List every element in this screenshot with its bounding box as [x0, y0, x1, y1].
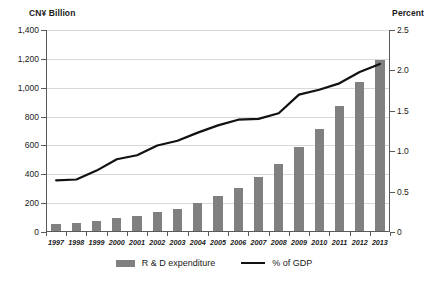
x-tick: [86, 232, 87, 236]
left-tick-label: 400: [25, 169, 39, 179]
x-tick: [309, 232, 310, 236]
x-tick-label: 2001: [129, 238, 145, 247]
right-tick: [390, 151, 395, 152]
x-tick-label: 2009: [291, 238, 307, 247]
x-tick-label: 2006: [230, 238, 246, 247]
x-tick-label: 2010: [311, 238, 327, 247]
left-tick-label: 200: [25, 198, 39, 208]
bar-swatch-icon: [116, 260, 135, 267]
x-tick: [188, 232, 189, 236]
x-tick: [248, 232, 249, 236]
x-tick: [147, 232, 148, 236]
x-tick: [167, 232, 168, 236]
right-tick-label: 1.5: [397, 106, 409, 116]
right-tick-label: 1.0: [397, 146, 409, 156]
x-tick: [127, 232, 128, 236]
left-tick-label: 800: [25, 112, 39, 122]
legend-label-expenditure: R & D expenditure: [142, 258, 216, 268]
x-tick-label: 2002: [149, 238, 165, 247]
right-tick-label: 2.0: [397, 65, 409, 75]
x-tick-label: 1999: [89, 238, 105, 247]
plot-area: 1,4001,2001,0008006004002000 2.52.01.51.…: [46, 30, 390, 232]
x-tick-label: 2012: [352, 238, 368, 247]
left-tick-label: 600: [25, 140, 39, 150]
x-tick: [390, 232, 391, 236]
x-tick-label: 2003: [170, 238, 186, 247]
line-series: [46, 30, 390, 232]
x-tick: [289, 232, 290, 236]
x-tick-label: 2007: [250, 238, 266, 247]
x-tick: [269, 232, 270, 236]
x-tick-label: 2000: [109, 238, 125, 247]
legend-item-expenditure: R & D expenditure: [116, 258, 216, 268]
x-tick: [329, 232, 330, 236]
left-tick-label: 1,000: [18, 83, 39, 93]
right-tick: [390, 192, 395, 193]
right-tick: [390, 111, 395, 112]
left-tick-label: 1,400: [18, 25, 39, 35]
x-tick: [107, 232, 108, 236]
x-tick-label: 2008: [271, 238, 287, 247]
right-tick-label: 0.5: [397, 187, 409, 197]
legend-label-gdp: % of GDP: [272, 258, 312, 268]
left-tick-label: 0: [34, 227, 39, 237]
plot-frame: 1,4001,2001,0008006004002000 2.52.01.51.…: [46, 30, 390, 232]
line-swatch-icon: [241, 262, 265, 264]
right-axis-title: Percent: [392, 8, 424, 18]
left-tick-label: 1,200: [18, 54, 39, 64]
chart-container: CN¥ Billion Percent 1,4001,2001,00080060…: [0, 0, 428, 282]
x-tick-label: 2011: [332, 238, 347, 247]
chart-legend: R & D expenditure % of GDP: [0, 258, 428, 268]
x-tick: [350, 232, 351, 236]
x-tick-label: 1998: [68, 238, 84, 247]
x-tick-label: 2004: [190, 238, 206, 247]
right-tick-label: 2.5: [397, 25, 409, 35]
legend-item-gdp: % of GDP: [241, 258, 312, 268]
gdp-line-path: [56, 64, 380, 180]
right-tick: [390, 30, 395, 31]
left-axis-title: CN¥ Billion: [29, 8, 75, 18]
x-tick: [208, 232, 209, 236]
x-tick-label: 1997: [48, 238, 64, 247]
x-tick: [228, 232, 229, 236]
x-tick: [370, 232, 371, 236]
x-tick-label: 2005: [210, 238, 226, 247]
x-tick: [46, 232, 47, 236]
x-tick-label: 2013: [372, 238, 388, 247]
right-tick: [390, 70, 395, 71]
right-tick-label: 0: [397, 227, 402, 237]
x-tick: [66, 232, 67, 236]
